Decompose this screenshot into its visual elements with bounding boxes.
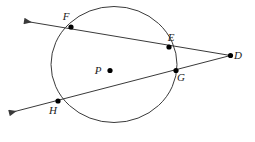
- secant-line-d-e-f: [24, 21, 231, 56]
- geometry-figure: F E D G H P: [0, 0, 255, 142]
- point-dot-p-center: [107, 68, 112, 73]
- point-label-e: E: [167, 31, 175, 43]
- geometry-canvas: F E D G H P: [0, 0, 255, 142]
- point-dot-h: [55, 98, 60, 103]
- secant-line-d-g-h: [9, 56, 231, 114]
- point-label-g: G: [177, 71, 185, 83]
- point-label-f: F: [62, 10, 70, 22]
- point-dot-e: [166, 44, 171, 49]
- point-label-p: P: [94, 64, 102, 76]
- circle-p-outline: [51, 7, 177, 123]
- point-label-d: D: [233, 49, 242, 61]
- point-label-h: H: [48, 104, 58, 116]
- point-dot-f: [68, 24, 73, 29]
- point-dot-d: [228, 53, 233, 58]
